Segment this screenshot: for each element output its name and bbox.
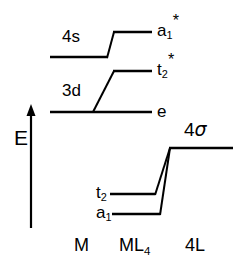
energy-axis	[27, 104, 36, 228]
energy-axis-arrowhead	[27, 104, 36, 116]
mo-diagram-canvas	[0, 0, 246, 266]
correlation-3d-to-t2-star	[93, 71, 114, 112]
a1-star-asterisk: *	[173, 11, 179, 29]
orbital-label-t2-star: t2*	[157, 61, 174, 78]
complex-label-main: ML	[119, 235, 144, 255]
correlation-4s-to-a1-star	[107, 32, 114, 58]
correlation-t2-to-4-sigma	[155, 148, 170, 195]
orbital-label-e: e	[157, 103, 166, 120]
orbital-label-3d: 3d	[62, 82, 81, 99]
t2-subscript: 2	[101, 191, 107, 203]
four-sigma-number: 4	[184, 119, 195, 140]
orbital-label-a1-star: a1*	[157, 22, 179, 39]
t2-star-asterisk: *	[168, 50, 174, 68]
orbital-label-a1: a1	[96, 204, 112, 221]
sigma-glyph: σ	[195, 118, 207, 140]
mo-diagram: 4s 3d a1* t2* e t2 a1 4σ E M ML4 4L	[0, 0, 246, 266]
complex-label-subscript: 4	[144, 245, 150, 257]
complex-bonding-levels	[110, 194, 160, 214]
column-label-complex: ML4	[119, 236, 150, 254]
orbital-label-4-sigma: 4σ	[184, 120, 207, 139]
a1-subscript: 1	[105, 211, 111, 223]
orbital-label-4s: 4s	[62, 28, 80, 45]
t2-star-subscript: 2	[162, 68, 168, 80]
a1-star-subscript: 1	[166, 29, 172, 41]
energy-axis-label: E	[14, 127, 28, 148]
column-label-metal: M	[74, 236, 89, 254]
orbital-label-t2: t2	[96, 184, 107, 201]
complex-antibonding-levels	[113, 32, 152, 71]
column-label-ligands: 4L	[185, 236, 205, 254]
correlation-a1-to-4-sigma	[160, 148, 170, 215]
